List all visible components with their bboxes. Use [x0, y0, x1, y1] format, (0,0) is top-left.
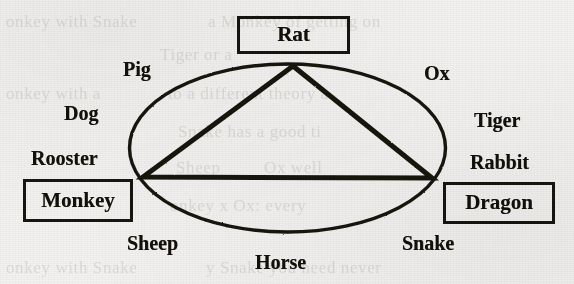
zodiac-label-sheep: Sheep [127, 233, 178, 253]
zodiac-label-pig: Pig [123, 59, 151, 79]
zodiac-label-rabbit: Rabbit [470, 152, 529, 172]
zodiac-label-dog: Dog [64, 103, 98, 123]
zodiac-box-dragon: Dragon [443, 182, 555, 224]
zodiac-box-label-monkey: Monkey [41, 190, 115, 212]
zodiac-box-label-dragon: Dragon [465, 192, 533, 214]
zodiac-label-snake: Snake [402, 233, 454, 253]
zodiac-label-rooster: Rooster [31, 148, 98, 168]
zodiac-label-tiger: Tiger [474, 110, 520, 130]
zodiac-box-monkey: Monkey [23, 179, 133, 222]
zodiac-label-ox: Ox [424, 63, 450, 83]
scanned-diagram-page: onkey with Snakea Monkey of getting onTi… [0, 0, 574, 284]
zodiac-box-rat: Rat [237, 16, 350, 54]
zodiac-label-horse: Horse [255, 252, 306, 272]
zodiac-box-label-rat: Rat [277, 24, 310, 46]
